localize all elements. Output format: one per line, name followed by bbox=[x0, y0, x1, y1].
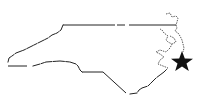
north-carolina-map bbox=[0, 0, 203, 106]
southeast-coast bbox=[130, 70, 166, 94]
star-icon bbox=[171, 51, 193, 71]
south-border bbox=[82, 72, 126, 93]
south-border-west bbox=[33, 61, 82, 72]
northwest-border bbox=[8, 25, 63, 62]
albemarle-sound bbox=[166, 13, 178, 44]
